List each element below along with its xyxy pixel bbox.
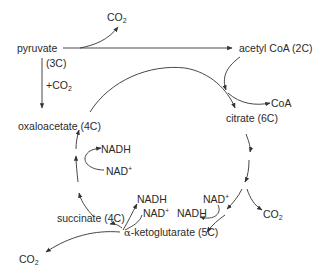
arrow-citrate-down-2 bbox=[245, 160, 249, 182]
nadh-left-label: NADH bbox=[101, 144, 131, 155]
arrow-acetylcoa-to-citrate bbox=[224, 57, 240, 90]
citric-acid-cycle-diagram: CO2 pyruvate (3C) +CO2 acetyl CoA (2C) C… bbox=[0, 0, 327, 276]
pyruvate-label: pyruvate bbox=[17, 43, 57, 54]
co2-bottom-label: CO2 bbox=[19, 254, 39, 266]
nadh-mid-label: NADH bbox=[137, 194, 167, 205]
arrow-left-arc-2 bbox=[76, 156, 78, 182]
arrow-left-arc-1 bbox=[76, 130, 79, 149]
arrow-to-co2-right bbox=[247, 189, 262, 210]
arrow-to-nadh-branch bbox=[227, 189, 242, 209]
nad-left-label: NAD+ bbox=[106, 166, 132, 177]
oxaloacetate-label: oxaloacetate (4C) bbox=[18, 121, 101, 132]
plus-co2-label: +CO2 bbox=[46, 80, 72, 92]
arrow-alphaKG-to-succinate bbox=[110, 224, 122, 228]
arrow-citrate-down-1 bbox=[246, 134, 250, 152]
arrow-to-co2-bottom bbox=[46, 232, 120, 252]
nadh-right-label: NADH bbox=[177, 208, 207, 219]
coa-label: CoA bbox=[271, 98, 291, 109]
alpha-ketoglutarate-label: α-ketoglutarate (5C) bbox=[124, 227, 218, 238]
nad-right-label: NAD+ bbox=[203, 194, 229, 205]
arrow-to-co2-top bbox=[80, 27, 118, 48]
citrate-label: citrate (6C) bbox=[226, 113, 278, 124]
co2-top-label: CO2 bbox=[107, 12, 127, 24]
acetyl-coa-label: acetyl CoA (2C) bbox=[239, 43, 313, 54]
arrow-oxaloacetate-to-citrate bbox=[90, 67, 235, 112]
succinate-label: succinate (4C) bbox=[57, 213, 125, 224]
arrow-to-coa bbox=[228, 93, 270, 104]
co2-right-label: CO2 bbox=[263, 209, 283, 221]
pyruvate-carbons-label: (3C) bbox=[46, 58, 66, 69]
nad-mid-label: NAD+ bbox=[143, 208, 169, 219]
